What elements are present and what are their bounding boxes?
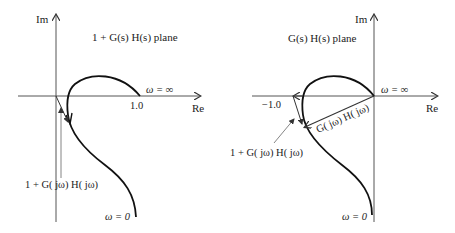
right-plot: Im Re G(s) H(s) plane −1.0 ω = ∞ ω = 0 G…: [230, 13, 438, 222]
left-plot: Im Re 1 + G(s) H(s) plane 1.0 ω = ∞ ω = …: [18, 13, 204, 222]
left-plot-title: 1 + G(s) H(s) plane: [92, 31, 178, 44]
left-im-label: Im: [36, 13, 49, 25]
left-omega-inf: ω = ∞: [146, 84, 173, 95]
right-vector-sum-label: 1 + G( jω) H( jω): [230, 147, 304, 159]
right-omega-inf: ω = ∞: [381, 84, 408, 95]
left-vector-label: 1 + G( jω) H( jω): [25, 179, 99, 191]
left-vector-1plusgh: [56, 96, 68, 122]
nyquist-diagram: Im Re 1 + G(s) H(s) plane 1.0 ω = ∞ ω = …: [0, 0, 455, 233]
left-nyquist-curve: [67, 76, 140, 217]
right-leader-line: [274, 119, 294, 143]
right-tick-minus-one: −1.0: [262, 99, 281, 110]
right-vector-1plusgh: [293, 96, 302, 124]
left-re-label: Re: [192, 102, 204, 114]
right-im-label: Im: [355, 13, 368, 25]
right-re-label: Re: [426, 102, 438, 114]
left-tick-one: 1.0: [130, 100, 143, 111]
right-omega-zero: ω = 0: [342, 211, 368, 222]
left-omega-zero: ω = 0: [105, 211, 131, 222]
right-plot-title: G(s) H(s) plane: [288, 32, 357, 45]
right-nyquist-curve: [302, 76, 374, 215]
